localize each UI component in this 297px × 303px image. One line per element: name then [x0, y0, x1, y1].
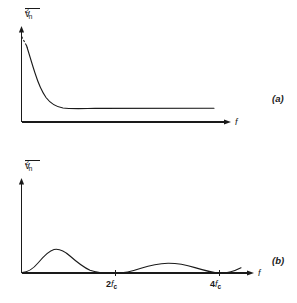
panel-a-curve	[27, 46, 215, 109]
panel-b-x-axis-label: f	[258, 269, 261, 278]
panel-b-y-subscript: n	[28, 165, 32, 172]
panel-a-plot	[0, 0, 297, 150]
figure-root: v2n f (a) v2n	[0, 0, 297, 303]
panel-b-tick-label-2fc: 2fc	[106, 280, 117, 289]
panel-b-curve	[22, 249, 241, 273]
panel-a-x-axis-label: f	[235, 118, 238, 127]
panel-b-plot	[0, 150, 297, 303]
panel-b: v2n 2fc 4fc f (b)	[0, 150, 297, 303]
panel-a-y-axis-label: v2n	[25, 8, 38, 19]
panel-b-tag: (b)	[272, 256, 284, 266]
tick-2fc-subscript: c	[114, 283, 118, 290]
panel-b-tick-label-4fc: 4fc	[210, 280, 221, 289]
panel-a: v2n f (a)	[0, 0, 297, 150]
panel-b-y-axis	[19, 178, 24, 273]
panel-a-y-subscript: n	[28, 13, 32, 20]
panel-a-x-axis	[22, 119, 232, 124]
panel-a-tag: (a)	[272, 94, 284, 104]
tick-4fc-subscript: c	[218, 283, 222, 290]
panel-b-y-axis-label: v2n	[25, 160, 38, 171]
